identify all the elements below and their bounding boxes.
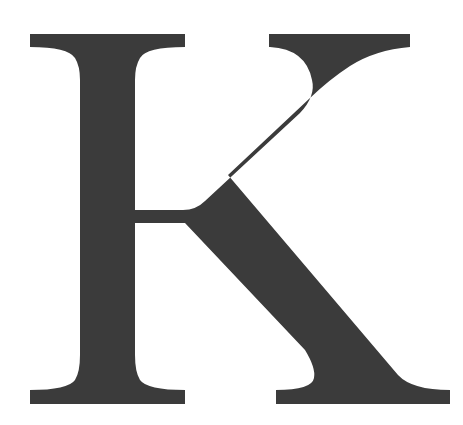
letter-k-shape bbox=[30, 34, 450, 404]
letter-k-glyph bbox=[0, 0, 463, 425]
letter-canvas: K bbox=[0, 0, 463, 425]
